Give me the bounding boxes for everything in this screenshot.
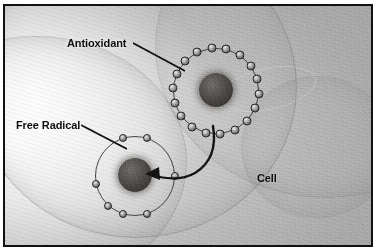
free-radical-label: Free Radical: [16, 119, 80, 131]
electron: [230, 125, 239, 134]
electron: [253, 75, 262, 84]
electron: [172, 69, 181, 78]
electron: [119, 210, 127, 218]
electron: [181, 57, 190, 66]
electron: [170, 98, 179, 107]
donation-arrow-icon: [117, 124, 227, 190]
electron: [177, 112, 186, 121]
electron: [143, 210, 151, 218]
electron: [104, 202, 112, 210]
electron: [92, 180, 100, 188]
figure-container: Antioxidant Free Radical Cell: [0, 0, 376, 250]
electron: [251, 104, 260, 113]
antioxidant-nucleus: [199, 73, 233, 107]
electron: [169, 84, 178, 93]
electron: [242, 116, 251, 125]
cell-label: Cell: [257, 172, 277, 184]
electron: [222, 45, 231, 54]
electron: [207, 44, 216, 53]
electron: [193, 48, 202, 57]
electron: [254, 89, 263, 98]
antioxidant-molecule: [173, 48, 259, 134]
micrograph-frame: Antioxidant Free Radical Cell: [3, 4, 373, 247]
antioxidant-label: Antioxidant: [67, 37, 126, 49]
electron: [246, 61, 255, 70]
electron: [236, 51, 245, 60]
